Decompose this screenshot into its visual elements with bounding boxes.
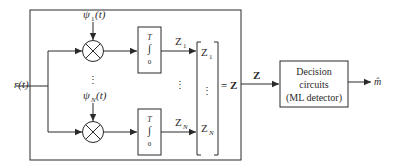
svg-text:Z: Z [175, 35, 182, 47]
svg-text:ψ: ψ [83, 8, 90, 20]
svg-text:1: 1 [183, 42, 187, 50]
svg-text:Z: Z [201, 122, 208, 134]
vector-entry-zn: Z N [201, 122, 214, 137]
correlation-receiver-diagram: r(t) ψ 1 (t) T ∫ 0 Z 1 ⋮ ⋮ ψ N (t) [0, 0, 395, 168]
basis-function-n-label: ψ N (t) [83, 89, 107, 104]
decision-line-1: Decision [296, 66, 332, 77]
input-label: r(t) [14, 78, 29, 91]
vector-left-bracket [197, 42, 201, 155]
vector-link-label: Z [253, 69, 260, 81]
decision-line-3: (ML detector) [286, 92, 342, 104]
output-estimate-label: m̂ [374, 76, 381, 87]
integrator-1-upper: T [147, 33, 152, 42]
svg-text:(t): (t) [96, 89, 107, 102]
svg-text:Z: Z [201, 46, 208, 58]
decision-line-2: circuits [299, 79, 329, 90]
multiplier-n-icon [83, 122, 104, 143]
svg-text:N: N [182, 123, 188, 131]
vector-equals-label: = Z [221, 79, 237, 91]
integrator-n-lower: 0 [148, 140, 152, 148]
output-ellipsis-icon: ⋮ [175, 79, 185, 90]
branch-ellipsis-icon: ⋮ [88, 74, 98, 85]
svg-text:(t): (t) [95, 8, 106, 21]
vector-right-bracket [214, 42, 218, 155]
integrator-n-symbol: ∫ [147, 124, 152, 137]
svg-text:1: 1 [209, 53, 213, 61]
integrator-1-symbol: ∫ [147, 42, 152, 55]
output-zn-label: Z N [175, 116, 188, 131]
svg-text:N: N [208, 129, 214, 137]
integrator-1-lower: 0 [148, 58, 152, 66]
svg-text:ψ: ψ [83, 89, 90, 101]
vector-ellipsis-icon: ⋮ [202, 85, 212, 96]
output-z1-label: Z 1 [175, 35, 187, 50]
multiplier-1-icon [83, 41, 104, 62]
vector-entry-z1: Z 1 [201, 46, 213, 61]
basis-function-1-label: ψ 1 (t) [83, 8, 106, 23]
svg-text:Z: Z [175, 116, 182, 128]
integrator-n-upper: T [147, 115, 152, 124]
